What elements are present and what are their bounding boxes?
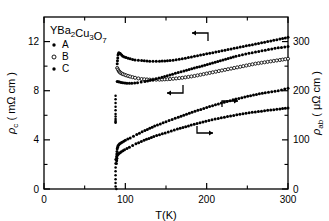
data-point: [270, 90, 273, 93]
data-point: [185, 113, 188, 116]
data-point: [130, 82, 133, 85]
data-point: [196, 54, 199, 57]
data-point: [239, 65, 242, 68]
data-point: [208, 62, 211, 65]
data-point: [187, 75, 190, 78]
data-point: [182, 114, 185, 117]
data-point: [272, 108, 275, 111]
data-point: [161, 60, 164, 63]
plot-frame: [44, 17, 288, 189]
data-point: [238, 113, 241, 116]
data-point: [208, 105, 211, 108]
data-point: [287, 45, 290, 48]
data-point: [277, 46, 280, 49]
x-tick-label: 100: [117, 194, 134, 205]
data-point: [188, 112, 191, 115]
data-point: [217, 117, 220, 120]
data-point: [114, 162, 117, 165]
data-point: [275, 108, 278, 111]
data-point: [211, 118, 214, 121]
data-point: [273, 90, 276, 93]
data-point: [214, 103, 217, 106]
data-point: [174, 72, 177, 75]
data-point: [199, 73, 202, 76]
data-point: [241, 53, 244, 56]
data-point: [266, 109, 269, 112]
data-point: [191, 111, 194, 114]
data-point: [140, 59, 143, 62]
data-point: [214, 51, 217, 54]
data-point: [257, 42, 260, 45]
data-point: [157, 77, 160, 80]
data-point: [242, 65, 245, 68]
data-point: [263, 41, 266, 44]
arrow-left-upper-rho-c: [192, 30, 208, 41]
legend-label: C: [62, 63, 69, 74]
data-point: [166, 74, 169, 77]
data-point: [283, 88, 286, 91]
arrow-head: [167, 90, 171, 95]
legend-formula: YBa2Cu3O7: [50, 24, 107, 45]
data-point: [214, 118, 217, 121]
data-point: [208, 52, 211, 55]
data-point: [148, 60, 151, 63]
data-point: [204, 120, 207, 123]
data-point: [140, 81, 143, 84]
data-point: [153, 125, 156, 128]
data-point: [199, 121, 202, 124]
data-point: [154, 77, 157, 80]
data-point: [199, 108, 202, 111]
data-point: [249, 94, 252, 97]
data-point: [184, 57, 187, 60]
data-point: [163, 75, 166, 78]
data-point: [161, 132, 164, 135]
data-point: [240, 96, 243, 99]
y-left-tick-label: 12: [28, 36, 40, 47]
data-point: [257, 50, 260, 53]
data-point: [232, 56, 235, 59]
legend-item-b: B: [52, 51, 69, 62]
data-point: [203, 64, 206, 67]
y-right-axis-label: ρab ( μΩ cm ): [310, 71, 325, 136]
data-point: [219, 59, 222, 62]
series-a-rho-ab: [115, 87, 290, 161]
data-point: [114, 166, 117, 169]
data-point: [236, 46, 239, 49]
data-point: [278, 38, 281, 41]
data-point: [260, 61, 263, 64]
data-point: [114, 113, 117, 116]
data-point: [260, 41, 263, 44]
data-point: [280, 88, 283, 91]
data-point: [163, 59, 166, 62]
legend-marker-open-circle: [52, 55, 56, 59]
data-point: [281, 37, 284, 40]
data-point: [114, 115, 117, 118]
data-point: [236, 66, 239, 69]
data-point: [261, 92, 264, 95]
data-point: [168, 73, 171, 76]
data-point: [137, 77, 140, 80]
data-point: [267, 48, 270, 51]
x-tick-label: 0: [41, 194, 47, 205]
data-point: [116, 56, 119, 59]
data-point: [217, 50, 220, 53]
y-right-tick-label: 300: [293, 36, 310, 47]
data-point: [134, 142, 137, 145]
data-point: [245, 64, 248, 67]
data-point: [140, 140, 143, 143]
data-point: [235, 113, 238, 116]
data-point: [179, 127, 182, 130]
data-point: [158, 133, 161, 136]
data-point: [220, 116, 223, 119]
data-point: [146, 60, 149, 63]
data-point: [164, 131, 167, 134]
arrow-right-lower-rho-ab: [197, 126, 213, 136]
data-point: [195, 66, 198, 69]
data-point: [174, 117, 177, 120]
data-point: [264, 91, 267, 94]
y-left-axis-label: ρc ( mΩ cm ): [5, 72, 20, 135]
data-point: [114, 98, 117, 101]
data-point: [136, 81, 139, 84]
data-point: [252, 94, 255, 97]
data-point: [190, 55, 193, 58]
